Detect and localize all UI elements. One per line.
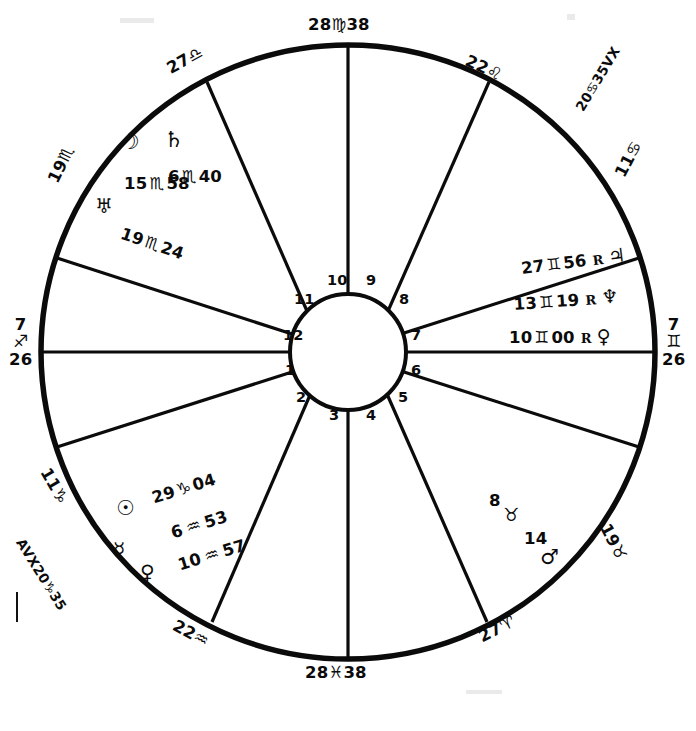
house-number-3: 3 <box>329 408 339 423</box>
retrograde-icon-pluto: R <box>581 332 592 346</box>
house-number-6: 6 <box>411 363 421 378</box>
planet-position-saturn: 6♏40 <box>168 168 222 185</box>
wheel-graphic <box>0 0 696 731</box>
jupiter-icon: ♃ <box>607 245 627 267</box>
cusp-label-mc: 28♍38 <box>308 16 370 33</box>
scan-smudge-bottom <box>466 690 502 694</box>
house-number-8: 8 <box>399 292 409 307</box>
neptune-icon: ♆ <box>601 287 620 308</box>
house-number-7: 7 <box>411 328 421 343</box>
taurus-icon-mars: ♉ <box>503 506 519 525</box>
cusp-label-descendant: 7 ♊ 26 <box>662 316 685 368</box>
moon-icon: ☽ <box>120 130 140 153</box>
mars-degree: 8 <box>489 492 501 509</box>
inner-circle <box>290 294 406 410</box>
astrology-chart-wheel: 28♍38 28♓38 7 ♐ 26 7 ♊ 26 27♎ 22♌ 20♋35V… <box>0 0 696 731</box>
scan-smudge-top-right <box>567 14 575 20</box>
pluto-icon: ♀ <box>597 327 611 347</box>
scorpio-icon-moon: ♏ <box>149 175 164 192</box>
aquarius-icon-mercury: ♒ <box>184 516 203 537</box>
gemini-icon: ♊ <box>666 333 681 351</box>
mercury-icon: ☿ <box>113 540 125 561</box>
house-number-10: 10 <box>327 273 348 288</box>
retrograde-icon-neptune: R <box>585 293 597 307</box>
planet-row-pluto: 10♊00R♀ <box>509 327 611 347</box>
virgo-icon: ♍ <box>331 15 346 34</box>
house-number-12: 12 <box>283 328 304 343</box>
sagittarius-icon: ♐ <box>13 333 28 351</box>
scorpio-icon-saturn: ♏ <box>182 168 197 185</box>
house-number-2: 2 <box>296 390 306 405</box>
gemini-icon-jupiter: ♊ <box>545 255 562 274</box>
mars-icon: ♂ <box>540 546 559 568</box>
house-number-4: 4 <box>366 408 376 423</box>
aquarius-icon-venus: ♒ <box>202 545 221 566</box>
cusp-label-ic: 28♓38 <box>305 664 367 681</box>
house-number-11: 11 <box>294 292 315 307</box>
house-number-9: 9 <box>366 273 376 288</box>
scan-smudge-top-left <box>120 18 154 23</box>
uranus-icon: ♅ <box>95 196 113 217</box>
retrograde-icon-jupiter: R <box>592 253 605 268</box>
saturn-icon: ♄ <box>164 128 184 151</box>
house-number-1: 1 <box>285 363 295 378</box>
gemini-icon-neptune: ♊ <box>538 293 554 311</box>
venus-icon: ♀ <box>140 562 155 583</box>
pisces-icon: ♓ <box>328 663 343 682</box>
house-number-5: 5 <box>398 390 408 405</box>
cusp-label-ascendant: 7 ♐ 26 <box>9 316 32 368</box>
scan-tick-mark <box>16 592 18 622</box>
gemini-icon-pluto: ♊ <box>534 329 549 346</box>
sun-icon: ☉ <box>116 497 135 519</box>
